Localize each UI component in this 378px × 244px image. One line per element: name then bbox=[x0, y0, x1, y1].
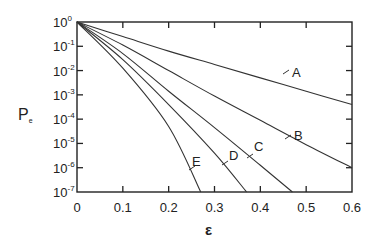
y-tick-label: 100 bbox=[53, 14, 72, 30]
plot-frame bbox=[77, 22, 352, 192]
y-axis-label: Pe bbox=[18, 106, 33, 124]
y-tick-label: 10-3 bbox=[53, 87, 75, 103]
x-tick-label: 0.6 bbox=[343, 200, 361, 215]
curve-label-c: C bbox=[254, 139, 263, 154]
x-axis-label: ε bbox=[205, 221, 212, 238]
y-tick-label: 10-6 bbox=[53, 160, 75, 176]
curve-b bbox=[77, 22, 352, 168]
curve-label-b: B bbox=[294, 128, 303, 143]
curve-label-leader bbox=[283, 70, 289, 74]
x-tick-label: 0.1 bbox=[114, 200, 132, 215]
chart: 10010-110-210-310-410-510-610-7 00.10.20… bbox=[0, 0, 378, 244]
y-tick-label: 10-2 bbox=[53, 63, 75, 79]
curve-e bbox=[77, 22, 201, 192]
y-tick-label: 10-4 bbox=[53, 111, 75, 127]
curve-label-a: A bbox=[292, 65, 301, 80]
x-tick-label: 0.2 bbox=[160, 200, 178, 215]
y-tick-label: 10-7 bbox=[53, 184, 75, 200]
curve-label-e: E bbox=[192, 154, 201, 169]
x-tick-label: 0 bbox=[73, 200, 80, 215]
curve-label-d: D bbox=[229, 148, 238, 163]
x-tick-label: 0.4 bbox=[251, 200, 269, 215]
x-tick-label: 0.3 bbox=[205, 200, 223, 215]
y-tick-label: 10-5 bbox=[53, 135, 75, 151]
x-tick-label: 0.5 bbox=[297, 200, 315, 215]
y-tick-label: 10-1 bbox=[53, 38, 75, 54]
